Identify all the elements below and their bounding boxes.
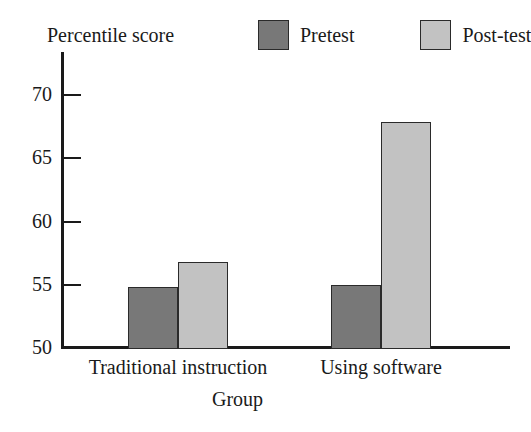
legend-label-posttest: Post-test	[462, 25, 531, 45]
bar-pretest-1	[331, 285, 381, 349]
x-category-label-software: Using software	[231, 356, 531, 379]
y-axis-line	[61, 52, 64, 349]
y-axis-title: Percentile score	[47, 24, 174, 47]
bar-posttest-0	[178, 262, 228, 349]
legend-swatch-posttest-icon	[420, 20, 451, 50]
legend-item-pretest: Pretest	[258, 20, 354, 50]
x-axis-title: Group	[0, 388, 525, 411]
y-tick-mark	[64, 284, 81, 286]
legend-label-pretest: Pretest	[300, 25, 354, 45]
y-tick-label: 65	[0, 147, 52, 167]
bar-pretest-0	[128, 287, 178, 349]
x-axis-title-text: Group	[212, 388, 263, 410]
chart-legend: Pretest Post-test	[258, 18, 531, 52]
legend-item-posttest: Post-test	[420, 20, 531, 50]
y-tick-mark	[64, 221, 81, 223]
legend-swatch-pretest-icon	[258, 20, 289, 50]
y-tick-mark	[64, 157, 81, 159]
y-tick-label: 55	[0, 274, 52, 294]
y-tick-label: 70	[0, 84, 52, 104]
bar-posttest-1	[381, 122, 431, 349]
y-tick-label: 50	[0, 337, 52, 357]
y-tick-mark	[64, 94, 81, 96]
y-tick-label: 60	[0, 211, 52, 231]
